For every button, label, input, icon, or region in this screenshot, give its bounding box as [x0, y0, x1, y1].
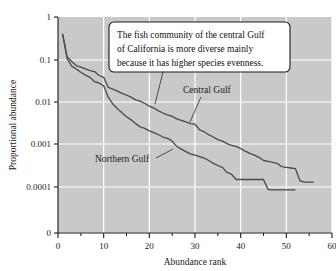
x-tick-label: 20: [145, 241, 155, 251]
x-tick-label: 60: [328, 241, 336, 251]
y-tick-label: 0.1: [40, 55, 51, 65]
y-tick-label: 0.0001: [26, 182, 51, 192]
northern-gulf-label: Northern Gulf: [95, 154, 150, 164]
y-tick-label: 0.001: [31, 139, 51, 149]
central-gulf-label: Central Gulf: [183, 85, 232, 95]
y-tick-label: 1: [47, 12, 52, 22]
x-tick-label: 0: [56, 241, 61, 251]
y-axis-title: Proportional abundance: [8, 80, 18, 171]
x-tick-label: 40: [236, 241, 246, 251]
x-tick-label: 50: [282, 241, 292, 251]
x-axis-ticks: 0102030405060: [56, 233, 336, 251]
y-axis-ticks: 10.10.010.0010.00010: [26, 12, 58, 238]
callout-line-3: because it has higher species evenness.: [117, 58, 263, 68]
x-tick-label: 10: [99, 241, 109, 251]
rank-abundance-plot: 10.10.010.0010.00010 0102030405060 Propo…: [0, 0, 336, 271]
x-tick-label: 30: [191, 241, 201, 251]
x-axis-title: Abundance rank: [164, 257, 227, 267]
y-tick-label: 0: [47, 228, 52, 238]
callout-line-1: The fish community of the central Gulf: [117, 30, 265, 40]
y-tick-label: 0.01: [35, 97, 51, 107]
callout-line-2: of California is more diverse mainly: [117, 44, 253, 54]
chart-figure: 10.10.010.0010.00010 0102030405060 Propo…: [0, 0, 336, 271]
